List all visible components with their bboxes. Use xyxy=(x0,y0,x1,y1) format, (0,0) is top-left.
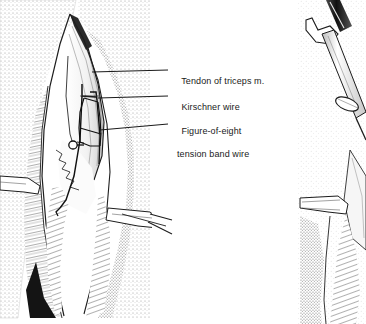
label-tensionband-text-line2: tension band wire xyxy=(171,149,249,161)
figure-container: Tendon of triceps m. Kirschner wire Figu… xyxy=(0,0,366,324)
label-figure-of-eight-tension-band-wire: Figure-of-eight tension band wire xyxy=(171,114,249,183)
label-tensionband-text-line1: Figure-of-eight xyxy=(181,126,241,136)
label-tendon-text: Tendon of triceps m. xyxy=(181,76,264,86)
right-panel xyxy=(298,0,366,324)
label-kirschner-text: Kirschner wire xyxy=(181,102,239,112)
